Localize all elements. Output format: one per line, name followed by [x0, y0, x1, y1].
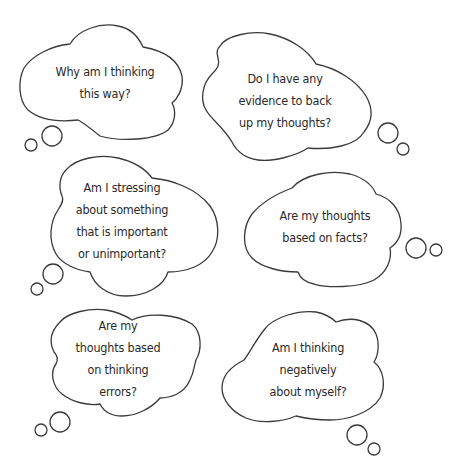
text-line: Do I have any	[239, 68, 332, 90]
thought-dot-small	[397, 143, 409, 155]
text-line: this way?	[55, 83, 154, 105]
thought-dot-large	[406, 238, 426, 258]
bubble-text-why-thinking: Why am I thinking this way?	[55, 61, 154, 105]
text-line: on thinking	[76, 359, 161, 381]
thought-dot-small	[430, 244, 442, 256]
thought-dot-large	[378, 123, 398, 143]
bubble-text-evidence: Do I have any evidence to back up my tho…	[239, 68, 332, 134]
thought-dot-small	[31, 283, 43, 295]
thought-dot-large	[347, 425, 367, 445]
text-line: Why am I thinking	[55, 61, 154, 83]
text-line: up my thoughts?	[239, 112, 332, 134]
bubble-text-stressing: Am I stressing about something that is i…	[76, 177, 169, 265]
bubble-text-negative-self: Am I thinking negatively about myself?	[270, 337, 347, 403]
text-line: Am I stressing	[76, 177, 169, 199]
text-line: based on facts?	[280, 227, 371, 249]
thought-dot-small	[368, 443, 380, 455]
text-line: errors?	[76, 381, 161, 403]
text-line: Are my	[76, 315, 161, 337]
thought-dot-large	[50, 412, 70, 432]
thought-dot-large	[42, 126, 62, 146]
text-line: that is important	[76, 221, 169, 243]
thought-dot-small	[25, 139, 37, 151]
text-line: or unimportant?	[76, 243, 169, 265]
text-line: evidence to back	[239, 90, 332, 112]
text-line: Am I thinking	[270, 337, 347, 359]
thought-dot-large	[43, 264, 63, 284]
bubble-text-facts: Are my thoughts based on facts?	[280, 205, 371, 249]
text-line: about myself?	[270, 381, 347, 403]
bubble-text-thinking-errors: Are my thoughts based on thinking errors…	[76, 315, 161, 403]
text-line: about something	[76, 199, 169, 221]
text-line: negatively	[270, 359, 347, 381]
thought-dot-small	[35, 424, 47, 436]
text-line: Are my thoughts	[280, 205, 371, 227]
text-line: thoughts based	[76, 337, 161, 359]
